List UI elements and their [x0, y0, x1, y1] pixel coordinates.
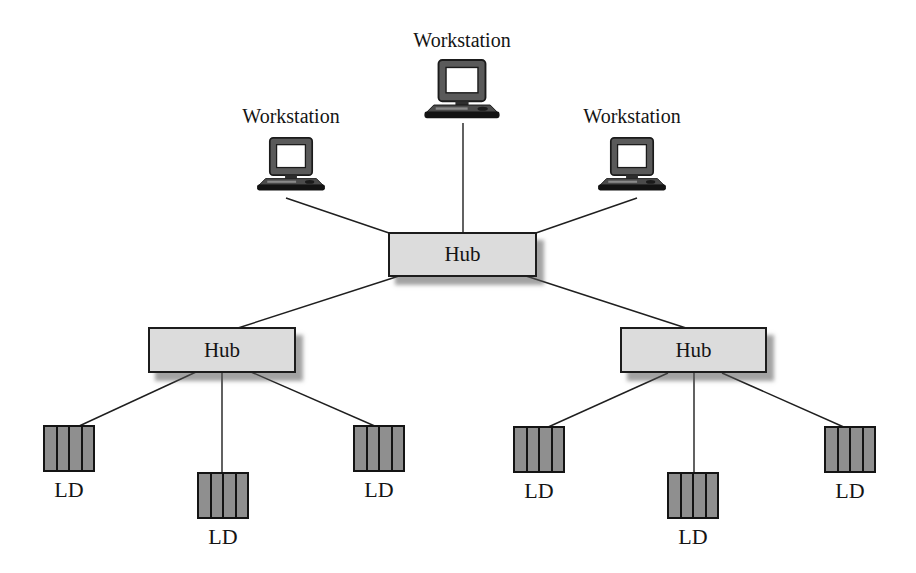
- ld-stripe: [45, 427, 58, 470]
- ld-stripe: [839, 428, 852, 471]
- ld-stripe: [355, 427, 368, 470]
- connection-line: [722, 373, 846, 428]
- computer-icon: [252, 135, 330, 195]
- ld-stripe: [553, 428, 564, 471]
- disk-stack-icon: [667, 472, 719, 519]
- hub-node-right: Hub: [620, 327, 767, 373]
- ld-node: LD: [353, 425, 405, 502]
- computer-icon: [418, 59, 506, 121]
- disk-stack-icon: [197, 472, 249, 519]
- workstation-label: Workstation: [242, 104, 339, 128]
- workstation-node-right: Workstation: [562, 104, 702, 195]
- ld-stripe: [380, 427, 393, 470]
- ld-label: LD: [54, 478, 83, 502]
- ld-node: LD: [824, 426, 876, 503]
- ld-label: LD: [364, 478, 393, 502]
- ld-node: LD: [667, 472, 719, 549]
- connection-line: [238, 276, 399, 328]
- connection-line: [533, 198, 637, 234]
- ld-stripe: [393, 427, 404, 470]
- ld-node: LD: [43, 425, 95, 502]
- hub-label: Hub: [444, 242, 480, 267]
- ld-label: LD: [835, 479, 864, 503]
- workstation-label: Workstation: [583, 104, 680, 128]
- connection-line: [286, 198, 392, 234]
- ld-stripe: [70, 427, 83, 470]
- connection-line: [526, 276, 686, 328]
- ld-label: LD: [524, 479, 553, 503]
- disk-stack-icon: [353, 425, 405, 472]
- ld-stripe: [83, 427, 94, 470]
- disk-stack-icon: [43, 425, 95, 472]
- ld-stripe: [58, 427, 71, 470]
- disk-stack-icon: [513, 426, 565, 473]
- ld-stripe: [540, 428, 553, 471]
- disk-stack-icon: [824, 426, 876, 473]
- ld-stripe: [368, 427, 381, 470]
- ld-stripe: [669, 474, 682, 517]
- workstation-label: Workstation: [413, 28, 510, 52]
- ld-stripe: [528, 428, 541, 471]
- ld-stripe: [199, 474, 212, 517]
- computer-icon: [593, 135, 671, 195]
- hub-label: Hub: [675, 338, 711, 363]
- connection-line: [77, 372, 196, 427]
- hub-node-root: Hub: [388, 232, 537, 277]
- workstation-node-left: Workstation: [221, 104, 361, 195]
- ld-stripe: [682, 474, 695, 517]
- ld-stripe: [224, 474, 237, 517]
- ld-label: LD: [208, 525, 237, 549]
- ld-stripe: [212, 474, 225, 517]
- ld-stripe: [515, 428, 528, 471]
- workstation-node-top: Workstation: [392, 28, 532, 121]
- ld-node: LD: [197, 472, 249, 549]
- connection-line: [251, 372, 377, 427]
- ld-stripe: [826, 428, 839, 471]
- hub-label: Hub: [204, 338, 240, 363]
- ld-stripe: [864, 428, 875, 471]
- ld-stripe: [237, 474, 248, 517]
- connection-line: [546, 373, 668, 428]
- hub-node-left: Hub: [148, 327, 296, 373]
- ld-label: LD: [678, 525, 707, 549]
- ld-stripe: [707, 474, 718, 517]
- ld-stripe: [694, 474, 707, 517]
- ld-stripe: [851, 428, 864, 471]
- diagram-canvas: Workstation Workstation Workstation Hub …: [0, 0, 916, 573]
- ld-node: LD: [513, 426, 565, 503]
